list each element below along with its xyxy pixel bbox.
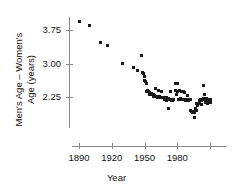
data-point (175, 93, 178, 96)
data-point (136, 69, 139, 72)
data-point (200, 103, 203, 106)
data-point (186, 94, 189, 97)
x-axis-title: Year (0, 172, 233, 183)
data-point (172, 98, 175, 101)
y-axis-title: Men's Age – Women's Age (years) (13, 10, 36, 150)
y-axis-title-line2: Age (years) (24, 10, 36, 150)
data-point (145, 82, 148, 85)
data-point (203, 93, 206, 96)
data-point (193, 116, 196, 119)
data-point (88, 24, 91, 27)
data-point (106, 44, 109, 47)
data-point (160, 90, 163, 93)
data-point (195, 109, 198, 112)
y-axis-title-line1: Men's Age – Women's (13, 10, 25, 150)
data-point (202, 84, 205, 87)
data-point (183, 91, 186, 94)
data-point (169, 90, 172, 93)
data-point (140, 54, 143, 57)
data-point (78, 20, 81, 23)
data-point (189, 98, 192, 101)
data-point (167, 107, 170, 110)
data-point (143, 75, 146, 78)
data-point (209, 101, 212, 104)
scatter-chart: 2.253.003.75 1890192019501980 Men's Age … (0, 0, 233, 191)
data-point (132, 66, 135, 69)
data-point (209, 98, 212, 101)
data-point (121, 62, 124, 65)
data-point (99, 41, 102, 44)
data-point (176, 82, 179, 85)
